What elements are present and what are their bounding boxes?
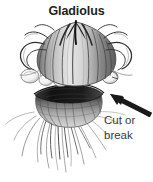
gladiolus-corm-illustration xyxy=(0,0,153,182)
cut-or-break-label-line2: break xyxy=(104,128,153,143)
gladiolus-figure: Gladiolus Cut or break xyxy=(0,0,153,182)
cut-or-break-label-line1: Cut or xyxy=(104,113,153,128)
cut-or-break-label: Cut or break xyxy=(104,113,153,142)
page-title: Gladiolus xyxy=(0,4,153,18)
